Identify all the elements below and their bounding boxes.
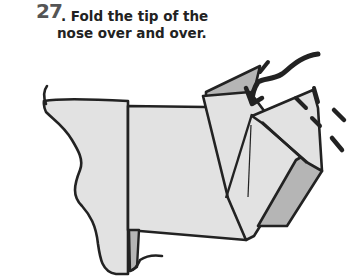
origami-diagram	[0, 0, 358, 277]
motion-dash-2	[332, 138, 342, 150]
motion-dash-1	[334, 110, 344, 120]
fold-arrow-tail-mark	[260, 62, 268, 72]
tail-body-panel	[44, 99, 128, 274]
